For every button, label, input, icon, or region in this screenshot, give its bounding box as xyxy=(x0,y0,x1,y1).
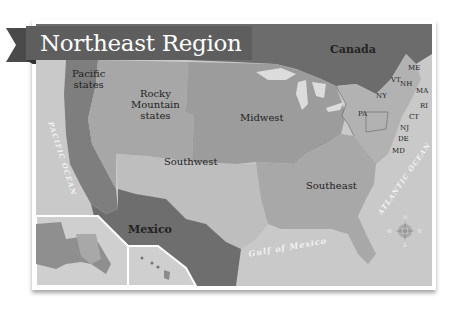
state-label-ma: MA xyxy=(416,87,428,95)
state-label-md: MD xyxy=(392,147,405,155)
compass-e: E xyxy=(418,228,422,234)
state-label-ri: RI xyxy=(420,102,428,110)
label-line: Mountain xyxy=(131,99,180,110)
compass-rose-icon: N S W E xyxy=(394,220,416,242)
region-label-pacific-states: Pacific states xyxy=(72,68,105,90)
label-line: states xyxy=(131,110,180,121)
region-label-southwest: Southwest xyxy=(164,156,217,167)
region-label-midwest: Midwest xyxy=(240,112,283,123)
country-label-mexico: Mexico xyxy=(128,224,172,235)
label-line: Pacific xyxy=(72,68,105,79)
label-line: Rocky xyxy=(131,88,180,99)
compass-n: N xyxy=(403,214,407,220)
state-label-pa: PA xyxy=(358,110,367,118)
compass-w: W xyxy=(387,228,392,234)
compass-s: S xyxy=(403,242,406,248)
state-label-nh: NH xyxy=(400,80,412,88)
state-label-nj: NJ xyxy=(400,124,409,132)
state-label-ct: CT xyxy=(409,113,419,121)
state-label-me: ME xyxy=(408,64,420,72)
state-label-de: DE xyxy=(398,135,409,143)
page-title: Northeast Region xyxy=(40,30,242,56)
label-line: states xyxy=(72,79,105,90)
region-label-rocky-mountain: Rocky Mountain states xyxy=(131,88,180,121)
state-label-ny: NY xyxy=(376,92,387,100)
region-label-southeast: Southeast xyxy=(306,180,357,191)
country-label-canada: Canada xyxy=(330,44,376,55)
